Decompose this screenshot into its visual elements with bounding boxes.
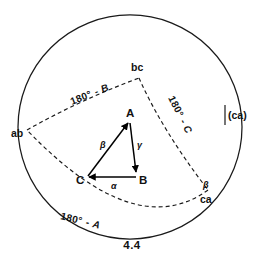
vertex-label-ca: ca — [200, 193, 212, 205]
arc-label-b-dash: - — [93, 86, 101, 98]
vector-a-to-b — [130, 123, 136, 172]
arc-label-a-dash: - — [85, 217, 91, 229]
vertex-label-ca-paren: (ca) — [228, 109, 247, 121]
arc-label-c-prefix: 180° — [166, 94, 186, 119]
arc-label-b-group: 180° - B — [69, 81, 111, 106]
vector-c-to-a — [88, 123, 128, 176]
triangle-vertex-c: C — [76, 174, 84, 186]
triangle-vertex-a: A — [126, 107, 134, 119]
figure-canvas: ab bc ca (ca) β 180° - B 180° - C 180° -… — [0, 0, 264, 273]
vector-label-alpha: α — [111, 181, 117, 191]
figure-caption: 4.4 — [0, 239, 264, 251]
arc-label-c-symbol: C — [181, 123, 194, 135]
vertex-label-ab: ab — [11, 127, 23, 139]
vector-label-beta: β — [99, 140, 106, 150]
arc-label-b-prefix: 180° — [69, 88, 94, 107]
arc-ca-to-ab — [27, 130, 208, 207]
beta-angle-at-ca: β — [202, 180, 209, 190]
arc-label-a-symbol: A — [91, 218, 102, 231]
vertex-label-bc: bc — [131, 61, 143, 73]
triangle-vertex-b: B — [139, 174, 147, 186]
arc-ab-to-bc — [27, 78, 139, 130]
arc-label-b-symbol: B — [99, 81, 110, 94]
arc-label-c-group: 180° - C — [166, 94, 194, 136]
figure-4-4: ab bc ca (ca) β 180° - B 180° - C 180° -… — [0, 0, 264, 273]
arc-label-a-prefix: 180° — [60, 210, 84, 226]
vector-label-gamma: γ — [137, 140, 143, 150]
